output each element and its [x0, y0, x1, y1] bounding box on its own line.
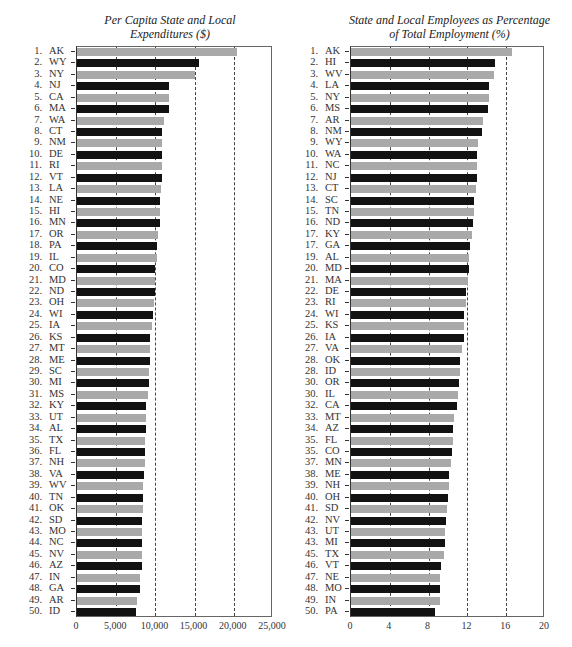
left-bar-hi — [77, 208, 160, 216]
left-rank-label: 38. — [20, 468, 42, 479]
right-state-label: WV — [325, 68, 343, 79]
left-y-tick — [71, 360, 75, 361]
right-state-label: GA — [325, 239, 340, 250]
right-y-tick — [345, 280, 349, 281]
left-rank-label: 29. — [20, 365, 42, 376]
right-bar-mo — [351, 585, 440, 593]
left-rank-label: 40. — [20, 491, 42, 502]
right-rank-label: 28. — [296, 365, 318, 376]
left-rank-label: 47. — [20, 571, 42, 582]
left-bar-ar — [77, 597, 137, 605]
right-bar-vt — [351, 562, 441, 570]
left-y-tick — [71, 485, 75, 486]
left-state-label: NY — [49, 68, 64, 79]
right-bar-nm — [351, 128, 482, 136]
left-rank-label: 31. — [20, 388, 42, 399]
left-rank-label: 46. — [20, 559, 42, 570]
right-bar-ri — [351, 299, 466, 307]
left-bar-mo — [77, 528, 142, 536]
right-y-tick — [345, 485, 349, 486]
left-state-label: CT — [49, 125, 62, 136]
left-y-tick — [71, 268, 75, 269]
right-y-tick — [345, 508, 349, 509]
left-x-tick-label: 20,000 — [219, 620, 247, 631]
left-gridline — [234, 47, 235, 616]
left-bar-ma — [77, 105, 169, 113]
left-y-tick — [71, 554, 75, 555]
left-bar-tx — [77, 437, 145, 445]
right-bar-nh — [351, 482, 449, 490]
right-x-tick-label: 8 — [425, 620, 430, 631]
right-y-tick — [345, 440, 349, 441]
left-bar-sd — [77, 517, 142, 525]
right-y-tick — [345, 188, 349, 189]
right-y-tick — [345, 565, 349, 566]
right-state-label: CT — [325, 182, 338, 193]
right-rank-label: 47. — [296, 571, 318, 582]
left-state-label: AK — [49, 45, 64, 56]
right-bar-wy — [351, 139, 478, 147]
left-bar-ne — [77, 197, 160, 205]
right-y-tick — [345, 588, 349, 589]
left-rank-label: 33. — [20, 411, 42, 422]
right-rank-label: 35. — [296, 445, 318, 456]
left-bar-in — [77, 574, 140, 582]
left-y-tick — [71, 234, 75, 235]
right-state-label: SC — [325, 194, 338, 205]
right-y-tick — [345, 371, 349, 372]
right-rank-label: 37. — [296, 456, 318, 467]
left-y-tick — [71, 417, 75, 418]
right-bar-id — [351, 368, 460, 376]
right-rank-label: 43. — [296, 536, 318, 547]
right-state-label: RI — [325, 296, 336, 307]
right-state-label: FL — [325, 434, 337, 445]
left-y-tick — [71, 508, 75, 509]
right-rank-label: 38. — [296, 468, 318, 479]
left-bar-wa — [77, 117, 164, 125]
left-bar-mn — [77, 219, 160, 227]
right-bar-wi — [351, 311, 464, 319]
right-state-label: WI — [325, 308, 338, 319]
right-rank-label: 40. — [296, 491, 318, 502]
left-state-label: DE — [49, 148, 63, 159]
right-bar-ct — [351, 185, 476, 193]
right-state-label: OK — [325, 354, 340, 365]
left-bar-nm — [77, 139, 162, 147]
right-y-tick — [345, 462, 349, 463]
left-y-tick — [71, 531, 75, 532]
right-state-label: LA — [325, 79, 339, 90]
left-bar-sc — [77, 368, 149, 376]
left-state-label: MO — [49, 525, 66, 536]
right-y-tick — [345, 120, 349, 121]
left-rank-label: 7. — [20, 114, 42, 125]
left-y-tick — [71, 211, 75, 212]
left-state-label: MA — [49, 102, 66, 113]
right-rank-label: 26. — [296, 331, 318, 342]
left-rank-label: 21. — [20, 274, 42, 285]
left-rank-label: 18. — [20, 239, 42, 250]
left-bar-ny — [77, 71, 195, 79]
right-bar-ne — [351, 574, 440, 582]
right-state-label: HI — [325, 56, 336, 67]
right-bar-sd — [351, 505, 447, 513]
right-bar-mn — [351, 459, 451, 467]
right-bar-tn — [351, 208, 474, 216]
right-bar-ma — [351, 277, 468, 285]
right-bar-wv — [351, 71, 494, 79]
left-rank-label: 4. — [20, 79, 42, 90]
right-x-tick-label: 12 — [461, 620, 471, 631]
left-state-label: FL — [49, 445, 61, 456]
right-bar-la — [351, 82, 489, 90]
left-rank-label: 44. — [20, 536, 42, 547]
left-state-label: LA — [49, 182, 63, 193]
right-bar-hi — [351, 59, 495, 67]
right-bar-tx — [351, 551, 444, 559]
right-y-tick — [345, 474, 349, 475]
right-x-tick-label: 4 — [386, 620, 391, 631]
right-bar-ok — [351, 357, 460, 365]
left-y-tick — [71, 165, 75, 166]
left-rank-label: 11. — [20, 159, 42, 170]
left-rank-label: 19. — [20, 251, 42, 262]
left-bar-la — [77, 185, 161, 193]
right-bar-me — [351, 471, 449, 479]
